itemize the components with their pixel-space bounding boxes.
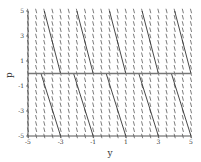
field-segment	[44, 34, 45, 38]
field-segment	[44, 21, 45, 25]
field-segment	[158, 78, 159, 82]
field-segment	[101, 9, 102, 13]
field-segment	[84, 65, 85, 69]
field-segment	[150, 121, 151, 125]
field-segment	[142, 121, 143, 125]
field-segment	[76, 128, 77, 132]
field-segment	[101, 53, 102, 57]
field-segment	[166, 90, 167, 94]
field-segment	[182, 59, 183, 63]
field-segment	[158, 15, 159, 19]
field-segment	[133, 34, 134, 38]
field-segment	[109, 46, 110, 50]
field-segment	[142, 90, 143, 94]
field-segment	[190, 53, 191, 57]
field-segment	[93, 96, 94, 100]
field-segment	[109, 65, 110, 69]
field-segment	[150, 96, 151, 100]
field-segment	[166, 59, 167, 63]
field-segment	[101, 28, 102, 32]
field-segment	[84, 128, 85, 132]
field-segment	[109, 59, 110, 63]
field-segment	[182, 84, 183, 88]
field-segment	[133, 121, 134, 125]
field-segment	[52, 34, 53, 38]
field-segment	[101, 21, 102, 25]
field-segment	[166, 109, 167, 113]
field-segment	[142, 59, 143, 63]
field-segment	[133, 78, 134, 82]
field-segment	[84, 59, 85, 63]
field-segment	[109, 109, 110, 113]
field-segment	[166, 40, 167, 44]
field-segment	[44, 46, 45, 50]
field-segment	[125, 53, 126, 57]
field-segment	[117, 84, 118, 88]
field-segment	[60, 96, 61, 100]
field-segment	[125, 28, 126, 32]
field-segment	[133, 46, 134, 50]
field-segment	[101, 15, 102, 19]
field-segment	[93, 40, 94, 44]
field-segment	[158, 59, 159, 63]
field-segment	[150, 59, 151, 63]
field-segment	[52, 103, 53, 107]
field-segment	[117, 65, 118, 69]
field-segment	[60, 28, 61, 32]
field-segment	[68, 21, 69, 25]
field-segment	[117, 53, 118, 57]
field-segment	[101, 103, 102, 107]
field-segment	[150, 53, 151, 57]
field-segment	[52, 90, 53, 94]
field-segment	[125, 78, 126, 82]
field-segment	[133, 28, 134, 32]
field-segment	[142, 53, 143, 57]
field-segment	[174, 90, 175, 94]
field-segment	[93, 115, 94, 119]
field-segment	[174, 128, 175, 132]
field-segment	[109, 40, 110, 44]
field-segment	[125, 40, 126, 44]
solution-curve-upper-4	[142, 11, 158, 74]
field-segment	[76, 21, 77, 25]
field-segment	[101, 96, 102, 100]
field-segment	[133, 21, 134, 25]
y-axis-label: p	[4, 72, 14, 78]
field-segment	[68, 28, 69, 32]
field-segment	[142, 34, 143, 38]
field-segment	[190, 96, 191, 100]
field-segment	[44, 90, 45, 94]
field-segment	[84, 46, 85, 50]
field-segment	[158, 34, 159, 38]
field-segment	[125, 65, 126, 69]
field-segment	[182, 53, 183, 57]
field-segment	[76, 46, 77, 50]
field-segment	[52, 9, 53, 13]
field-segment	[125, 84, 126, 88]
field-segment	[44, 121, 45, 125]
field-segment	[52, 96, 53, 100]
field-segment	[101, 109, 102, 113]
x-tick-label: 5	[189, 138, 193, 145]
field-segment	[93, 65, 94, 69]
field-segment	[133, 128, 134, 132]
field-segment	[68, 115, 69, 119]
field-segment	[60, 128, 61, 132]
field-segment	[68, 53, 69, 57]
field-segment	[68, 9, 69, 13]
field-segment	[117, 46, 118, 50]
field-segment	[76, 90, 77, 94]
field-segment	[93, 128, 94, 132]
field-segment	[76, 115, 77, 119]
field-segment	[182, 115, 183, 119]
field-segment	[68, 34, 69, 38]
y-tick-label: 5	[20, 7, 24, 14]
field-segment	[166, 53, 167, 57]
field-segment	[190, 9, 191, 13]
direction-field-chart: -5-3-1135-5-3-1135 y p	[0, 0, 201, 162]
field-segment	[174, 40, 175, 44]
field-segment	[44, 96, 45, 100]
field-segment	[125, 96, 126, 100]
field-segment	[133, 109, 134, 113]
field-segment	[76, 103, 77, 107]
